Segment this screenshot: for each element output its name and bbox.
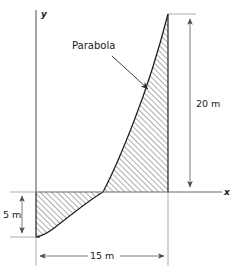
x-axis-label: x — [223, 187, 231, 197]
dimension-label-20m: 20 m — [196, 98, 220, 109]
y-axis-label: y — [41, 9, 48, 19]
callout-leader-line — [112, 56, 148, 89]
figure-canvas: y x 20 m 5 m 15 m Parabola — [0, 0, 233, 274]
dimension-5m: 5 m — [3, 192, 36, 237]
dimension-label-5m: 5 m — [3, 209, 21, 220]
parabola-figure: y x 20 m 5 m 15 m Parabola — [0, 0, 233, 274]
parabola-label: Parabola — [72, 40, 115, 51]
parabola-callout: Parabola — [72, 40, 148, 89]
dimension-label-15m: 15 m — [90, 250, 114, 261]
dimension-20m: 20 m — [168, 14, 220, 187]
